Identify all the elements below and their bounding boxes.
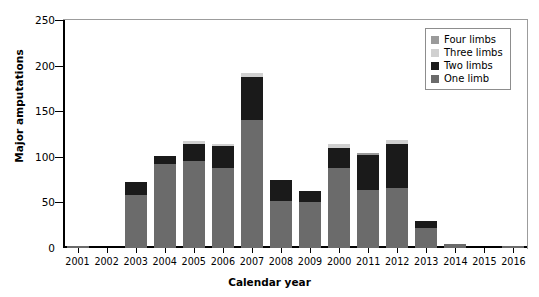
bar-segment-two-limbs bbox=[154, 156, 176, 164]
bar-segment-two-limbs bbox=[415, 221, 437, 228]
y-axis-tick-label: 0 bbox=[19, 243, 55, 253]
legend-item: Two limbs bbox=[431, 59, 503, 72]
bar-2013 bbox=[415, 221, 437, 248]
bar-2003 bbox=[125, 182, 147, 248]
bar-2004 bbox=[154, 156, 176, 248]
bar-2012 bbox=[386, 140, 408, 248]
bar-segment-one-limb bbox=[212, 168, 234, 248]
x-axis-tick bbox=[223, 248, 224, 253]
chart-legend: Four limbsThree limbsTwo limbsOne limb bbox=[425, 28, 511, 90]
legend-label: Three limbs bbox=[444, 48, 503, 58]
bar-segment-one-limb bbox=[386, 188, 408, 248]
bar-segment-two-limbs bbox=[241, 77, 263, 121]
bar-segment-two-limbs bbox=[270, 180, 292, 201]
bar-2007 bbox=[241, 73, 263, 248]
x-axis-tick bbox=[513, 248, 514, 253]
bar-2009 bbox=[299, 191, 321, 248]
legend-swatch-icon bbox=[431, 75, 439, 83]
y-axis-tick bbox=[55, 20, 63, 21]
bar-segment-one-limb bbox=[241, 120, 263, 248]
x-axis-tick bbox=[397, 248, 398, 253]
y-axis-tick bbox=[55, 157, 63, 158]
bar-segment-three-limbs bbox=[183, 141, 205, 144]
legend-label: Four limbs bbox=[444, 35, 496, 45]
x-axis-tick bbox=[107, 248, 108, 253]
bar-segment-one-limb bbox=[415, 228, 437, 248]
legend-label: One limb bbox=[444, 74, 489, 84]
x-axis-tick bbox=[194, 248, 195, 253]
bar-2011 bbox=[357, 153, 379, 248]
bar-2008 bbox=[270, 180, 292, 248]
bar-segment-one-limb bbox=[154, 164, 176, 248]
y-axis-tick-label: 50 bbox=[19, 197, 55, 207]
bar-segment-three-limbs bbox=[212, 144, 234, 146]
x-axis-tick bbox=[136, 248, 137, 253]
y-axis-title: Major amputations bbox=[13, 31, 25, 181]
bar-segment-two-limbs bbox=[299, 191, 321, 202]
legend-swatch-icon bbox=[431, 62, 439, 70]
bar-segment-one-limb bbox=[125, 195, 147, 248]
bar-segment-four-limbs bbox=[357, 153, 379, 155]
y-axis-tick bbox=[55, 66, 63, 67]
bar-segment-two-limbs bbox=[183, 144, 205, 161]
bar-segment-one-limb bbox=[357, 190, 379, 248]
x-axis-tick bbox=[368, 248, 369, 253]
x-axis-tick bbox=[455, 248, 456, 253]
bar-segment-two-limbs bbox=[125, 182, 147, 195]
bar-segment-one-limb bbox=[183, 161, 205, 248]
x-axis-tick bbox=[310, 248, 311, 253]
bar-segment-one-limb bbox=[328, 168, 350, 248]
x-axis-title: Calendar year bbox=[0, 276, 539, 288]
x-axis-tick bbox=[484, 248, 485, 253]
bar-segment-two-limbs bbox=[386, 144, 408, 188]
x-axis-tick bbox=[252, 248, 253, 253]
legend-item: Four limbs bbox=[431, 33, 503, 46]
bar-segment-three-limbs bbox=[241, 73, 263, 77]
x-axis-tick bbox=[165, 248, 166, 253]
bar-segment-three-limbs bbox=[328, 144, 350, 148]
legend-swatch-icon bbox=[431, 49, 439, 57]
bar-segment-one-limb bbox=[270, 201, 292, 248]
x-axis-tick bbox=[426, 248, 427, 253]
y-axis-tick bbox=[55, 111, 63, 112]
bar-segment-three-limbs bbox=[386, 140, 408, 144]
amputations-by-year-chart: 050100150200250 Major amputations Calend… bbox=[0, 0, 539, 297]
bar-segment-two-limbs bbox=[357, 155, 379, 190]
bar-segment-two-limbs bbox=[328, 148, 350, 168]
x-axis-tick bbox=[339, 248, 340, 253]
x-axis-tick bbox=[281, 248, 282, 253]
bar-2000 bbox=[328, 144, 350, 248]
bar-segment-two-limbs bbox=[212, 146, 234, 168]
bar-segment-one-limb bbox=[299, 202, 321, 248]
x-axis-tick bbox=[78, 248, 79, 253]
y-axis-tick-label: 250 bbox=[19, 15, 55, 25]
bar-2005 bbox=[183, 141, 205, 248]
y-axis-tick bbox=[55, 202, 63, 203]
legend-item: Three limbs bbox=[431, 46, 503, 59]
legend-swatch-icon bbox=[431, 36, 439, 44]
x-axis-tick-label: 2016 bbox=[491, 256, 535, 267]
bar-2006 bbox=[212, 144, 234, 248]
legend-item: One limb bbox=[431, 72, 503, 85]
legend-label: Two limbs bbox=[444, 61, 493, 71]
